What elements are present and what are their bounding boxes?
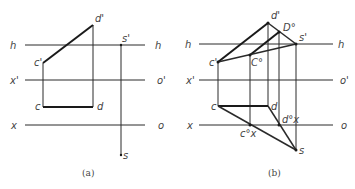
label-s: s bbox=[123, 150, 128, 161]
caption-b: (b) bbox=[268, 168, 281, 178]
label-c1: c' bbox=[34, 57, 42, 68]
label-o: o bbox=[341, 120, 347, 131]
label-h-left: h bbox=[185, 39, 191, 50]
label-h-right: h bbox=[155, 40, 161, 51]
point-s bbox=[295, 149, 298, 152]
label-s1: s' bbox=[122, 33, 130, 44]
point-dx0 bbox=[278, 124, 281, 127]
label-h-right: h bbox=[338, 39, 344, 50]
label-x: x bbox=[186, 120, 193, 131]
label-d1: d' bbox=[271, 10, 280, 21]
label-x1: x' bbox=[185, 75, 195, 86]
point-s1 bbox=[120, 44, 122, 46]
label-dx0: d°x bbox=[282, 114, 299, 125]
perspective-projection-diagram: h h x' o' x o d' c' s' c d s (a) bbox=[0, 0, 355, 189]
segment-c1-d1 bbox=[43, 25, 93, 63]
label-C0: C° bbox=[251, 57, 263, 68]
label-o: o bbox=[158, 120, 164, 131]
figure-b: h h x' o' x o d' D° s' c' C° c d c°x d°x… bbox=[185, 10, 349, 178]
label-c: c bbox=[35, 101, 41, 112]
label-D0: D° bbox=[283, 22, 296, 33]
label-cx0: c°x bbox=[240, 128, 256, 139]
label-s1: s' bbox=[299, 32, 307, 43]
label-h-left: h bbox=[10, 40, 16, 51]
label-x: x bbox=[10, 120, 17, 131]
label-x1: x' bbox=[9, 75, 19, 86]
label-s: s bbox=[299, 145, 304, 156]
point-d1 bbox=[267, 22, 270, 25]
point-D0 bbox=[278, 31, 281, 34]
label-o1: o' bbox=[157, 75, 166, 86]
label-d: d bbox=[97, 101, 104, 112]
line-c-s bbox=[218, 106, 296, 150]
label-d: d bbox=[271, 101, 278, 112]
label-c1: c' bbox=[209, 57, 217, 68]
label-d1: d' bbox=[95, 13, 104, 24]
point-s bbox=[120, 154, 122, 156]
line-d-s bbox=[268, 106, 296, 150]
caption-a: (a) bbox=[82, 168, 94, 178]
label-o1: o' bbox=[340, 75, 349, 86]
point-cx0 bbox=[249, 124, 252, 127]
label-c: c bbox=[211, 101, 217, 112]
figure-a: h h x' o' x o d' c' s' c d s (a) bbox=[9, 13, 166, 178]
point-s1 bbox=[295, 43, 298, 46]
